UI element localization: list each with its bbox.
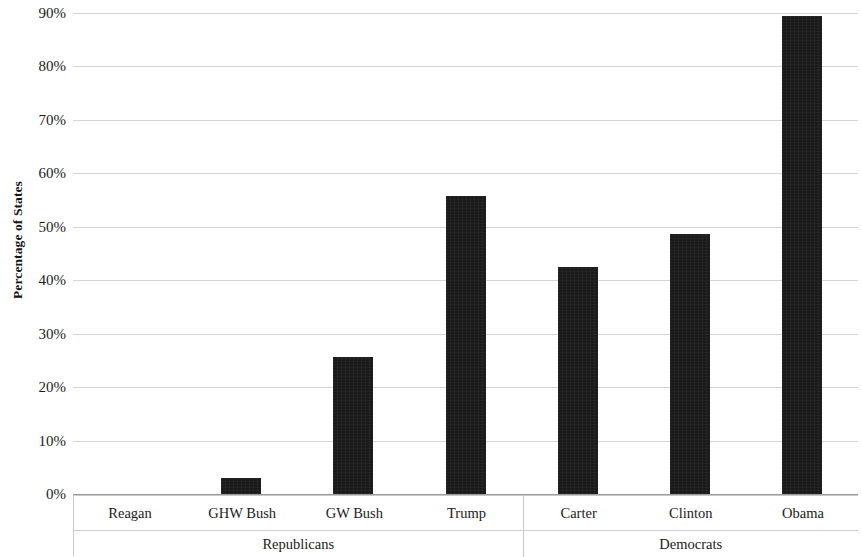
group-divider	[523, 496, 524, 557]
category-label: Reagan	[74, 496, 186, 531]
category-label: GHW Bush	[186, 496, 298, 531]
bar-clinton	[670, 234, 710, 494]
category-label: Trump	[410, 496, 522, 531]
bar-gw-bush	[333, 357, 373, 494]
y-axis-tick-labels: 0%10%20%30%40%50%60%70%80%90%	[0, 0, 66, 510]
bar-carter	[558, 267, 598, 494]
group-label-republicans: Republicans	[74, 531, 523, 557]
y-axis-tick-label: 90%	[0, 5, 66, 22]
y-axis-tick-label: 20%	[0, 379, 66, 396]
y-axis-tick-label: 30%	[0, 325, 66, 342]
plot-area	[73, 13, 858, 494]
y-axis-tick-label: 80%	[0, 58, 66, 75]
category-label: GW Bush	[298, 496, 410, 531]
category-label: Obama	[747, 496, 859, 531]
bar-ghw-bush	[221, 478, 261, 494]
category-axis-box: ReaganGHW BushGW BushTrumpCarterClintonO…	[73, 495, 858, 556]
category-names-row: ReaganGHW BushGW BushTrumpCarterClintonO…	[74, 496, 858, 531]
y-axis-tick-label: 50%	[0, 218, 66, 235]
y-axis-tick-label: 70%	[0, 111, 66, 128]
category-label: Carter	[523, 496, 635, 531]
bars-layer	[73, 13, 858, 494]
y-axis-tick-label: 40%	[0, 272, 66, 289]
y-axis-tick-label: 60%	[0, 165, 66, 182]
category-label: Clinton	[635, 496, 747, 531]
y-axis-tick-label: 0%	[0, 486, 66, 503]
bar-obama	[782, 16, 822, 494]
y-axis-tick-label: 10%	[0, 432, 66, 449]
bar-trump	[446, 196, 486, 494]
category-groups-row: RepublicansDemocrats	[74, 531, 858, 557]
group-label-democrats: Democrats	[523, 531, 859, 557]
